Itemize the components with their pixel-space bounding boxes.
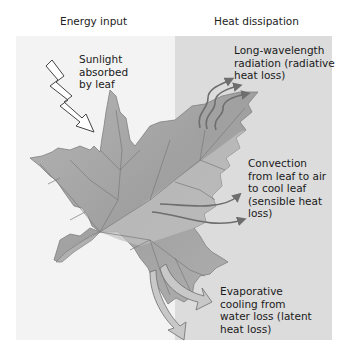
label-long-wavelength-radiation: Long-wavelength radiation (radiative hea… [234,44,335,82]
label-sunlight-absorbed: Sunlight absorbed by leaf [79,53,128,91]
label-evaporative-cooling: Evaporative cooling from water loss (lat… [220,285,312,335]
leaf-icon [30,90,258,304]
label-convection: Convection from leaf to air to cool leaf… [248,157,326,220]
